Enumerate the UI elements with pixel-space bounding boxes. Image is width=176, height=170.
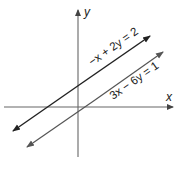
x-axis-label: x xyxy=(165,90,173,104)
y-axis-label: y xyxy=(83,5,91,19)
lower-line-equation-label: 3x − 6y = 1 xyxy=(107,59,160,101)
coordinate-plane-diagram: y x −x + 2y = 2 3x − 6y = 1 xyxy=(0,0,176,170)
